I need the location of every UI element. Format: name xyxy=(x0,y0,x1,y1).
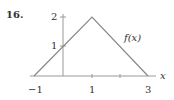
x-tick-label-neg1: −1 xyxy=(28,84,43,95)
function-graph: −1 1 3 x 1 2 f(x) xyxy=(0,0,174,100)
x-tick-label-3: 3 xyxy=(145,84,151,95)
x-axis-label: x xyxy=(160,70,166,81)
function-label: f(x) xyxy=(123,32,141,43)
y-tick-label-2: 2 xyxy=(51,11,57,22)
y-tick-label-1: 1 xyxy=(51,40,57,51)
x-tick-label-1: 1 xyxy=(89,84,95,95)
